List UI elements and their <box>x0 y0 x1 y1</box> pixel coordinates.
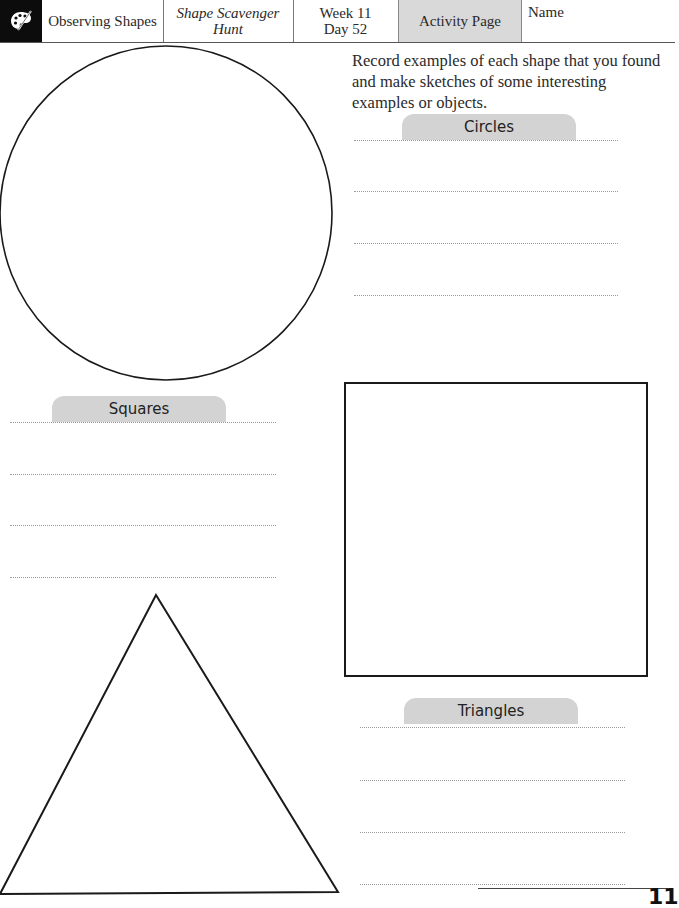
circles-line-4[interactable] <box>354 295 618 296</box>
triangles-tab: Triangles <box>404 698 578 724</box>
circles-label: Circles <box>464 118 514 136</box>
squares-tab: Squares <box>52 396 226 422</box>
squares-line-3[interactable] <box>10 525 276 526</box>
triangles-line-4[interactable] <box>360 884 625 885</box>
triangles-line-2[interactable] <box>360 780 625 781</box>
circle-drawing-area[interactable] <box>0 46 332 380</box>
triangles-line-3[interactable] <box>360 832 625 833</box>
triangles-label: Triangles <box>458 702 525 720</box>
squares-line-2[interactable] <box>10 474 276 475</box>
squares-line-1[interactable] <box>10 422 276 423</box>
page-number: 11 <box>648 884 679 908</box>
circles-line-3[interactable] <box>354 243 618 244</box>
circles-line-2[interactable] <box>354 191 618 192</box>
footer-rule <box>478 888 668 889</box>
square-drawing-area[interactable] <box>345 383 647 676</box>
squares-label: Squares <box>109 400 170 418</box>
circles-tab: Circles <box>402 114 576 140</box>
squares-line-4[interactable] <box>10 577 276 578</box>
triangle-drawing-area[interactable] <box>0 595 338 894</box>
circles-line-1[interactable] <box>354 140 618 141</box>
triangles-line-1[interactable] <box>360 727 625 728</box>
